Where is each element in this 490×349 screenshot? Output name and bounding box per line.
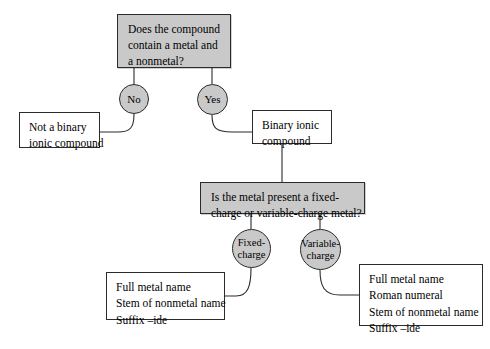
fixed-result-line-1: Full metal name	[116, 279, 216, 295]
branch-fixed-charge-line-2: charge	[238, 249, 266, 261]
binary-ionic-line-1: Binary ionic	[262, 117, 323, 133]
question-1-line-3: a nonmetal?	[128, 54, 221, 70]
question-2-node: Is the metal present a fixed- charge or …	[200, 182, 365, 214]
branch-no-node: No	[119, 84, 149, 114]
branch-fixed-charge-label: Fixed- charge	[238, 237, 266, 261]
question-2-line-2: charge or variable-charge metal?	[211, 206, 355, 222]
binary-ionic-compound-node: Binary ionic compound	[252, 110, 332, 144]
question-1-node: Does the compound contain a metal and a …	[117, 14, 231, 68]
branch-fixed-charge-line-1: Fixed-	[238, 237, 266, 249]
branch-variable-charge-node: Variable- charge	[300, 229, 341, 270]
branch-fixed-charge-node: Fixed- charge	[232, 229, 271, 268]
binary-ionic-line-2: compound	[262, 133, 323, 149]
fixed-result-line-3: Suffix –ide	[116, 312, 216, 328]
edge-fixed-to-fixedresult	[225, 268, 251, 296]
question-1-line-1: Does the compound	[128, 22, 221, 38]
branch-yes-label: Yes	[204, 93, 220, 105]
edge-variable-to-variableresult	[320, 270, 359, 295]
not-binary-line-1: Not a binary	[29, 119, 91, 135]
variable-result-line-3: Stem of nonmetal name	[369, 304, 474, 320]
not-binary-ionic-compound-node: Not a binary ionic compound	[19, 112, 100, 148]
flowchart-diagram: Does the compound contain a metal and a …	[0, 0, 490, 349]
variable-charge-result-node: Full metal name Roman numeral Stem of no…	[359, 264, 483, 326]
fixed-result-line-2: Stem of nonmetal name	[116, 295, 216, 311]
not-binary-line-2: ionic compound	[29, 135, 91, 151]
variable-result-line-4: Suffix –ide	[369, 320, 474, 336]
branch-yes-node: Yes	[197, 84, 228, 115]
branch-variable-charge-label: Variable- charge	[301, 238, 339, 262]
fixed-charge-result-node: Full metal name Stem of nonmetal name Su…	[106, 272, 225, 320]
question-1-line-2: contain a metal and	[128, 38, 221, 54]
edge-no-to-notbinary	[100, 114, 134, 132]
edge-yes-to-binary	[212, 115, 252, 132]
branch-variable-charge-line-2: charge	[301, 250, 339, 262]
branch-no-label: No	[127, 93, 140, 105]
branch-variable-charge-line-1: Variable-	[301, 238, 339, 250]
variable-result-line-1: Full metal name	[369, 271, 474, 287]
variable-result-line-2: Roman numeral	[369, 287, 474, 303]
question-2-line-1: Is the metal present a fixed-	[211, 190, 355, 206]
